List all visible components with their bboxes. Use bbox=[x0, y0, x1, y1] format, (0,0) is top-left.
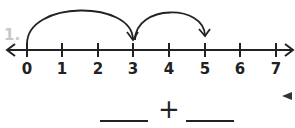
answer-blank-1[interactable] bbox=[100, 120, 148, 122]
tick-label-5: 5 bbox=[195, 60, 215, 78]
tick-label-4: 4 bbox=[159, 60, 179, 78]
tick-label-7: 7 bbox=[266, 60, 286, 78]
tick-label-3: 3 bbox=[123, 60, 143, 78]
tick-label-0: 0 bbox=[17, 60, 37, 78]
plus-operator: + bbox=[158, 94, 180, 124]
pointer-arrow-icon bbox=[282, 92, 292, 100]
tick-label-2: 2 bbox=[88, 60, 108, 78]
jump-arc-0-3 bbox=[27, 10, 133, 44]
tick-label-1: 1 bbox=[52, 60, 72, 78]
jump-arc-3-5 bbox=[135, 12, 205, 40]
tick-label-6: 6 bbox=[230, 60, 250, 78]
equation: + bbox=[94, 96, 244, 126]
answer-blank-2[interactable] bbox=[186, 120, 234, 122]
